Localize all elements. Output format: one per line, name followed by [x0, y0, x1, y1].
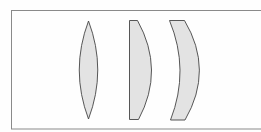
lens-diagram [0, 0, 261, 132]
meniscus-lens [170, 21, 200, 121]
lens-diagram-svg [0, 0, 261, 132]
plano-convex-lens [130, 21, 152, 120]
biconvex-lens [79, 21, 98, 119]
